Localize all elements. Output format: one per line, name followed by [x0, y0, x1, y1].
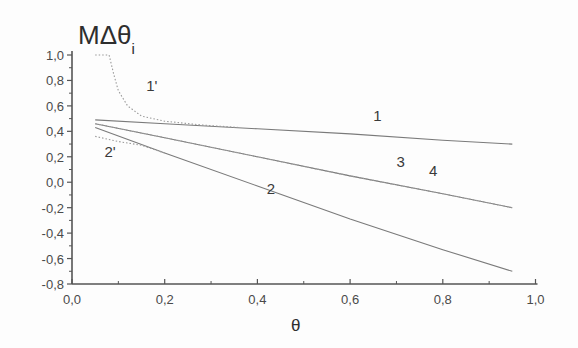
x-tick-label: 1,0: [526, 292, 544, 307]
curves: [95, 55, 512, 271]
curve-label-1: 1: [373, 107, 381, 124]
y-tick-label: 0,2: [46, 150, 64, 165]
curve-label-2-prime: 2': [104, 143, 115, 160]
y-tick-label: 0,4: [46, 124, 64, 139]
y-tick-label: -0,4: [42, 226, 64, 241]
y-tick-label: 0,8: [46, 73, 64, 88]
axes: [72, 51, 538, 284]
curve-1-prime: [95, 55, 239, 128]
curve-1: [95, 120, 512, 144]
x-tick-label: 0,4: [248, 292, 266, 307]
curve-label-1-prime: 1': [146, 77, 157, 94]
x-tick-label: 0,6: [341, 292, 359, 307]
x-tick-label: 0,0: [63, 292, 81, 307]
y-tick-label: -0,6: [42, 252, 64, 267]
y-tick-label: -0,8: [42, 277, 64, 292]
x-tick-label: 0,2: [156, 292, 174, 307]
curve-label-3: 3: [396, 153, 404, 170]
x-axis-title: θ: [291, 316, 300, 335]
curve-4: [95, 124, 512, 208]
curve-2: [95, 128, 512, 272]
y-tick-label: 0,0: [46, 175, 64, 190]
y-axis-title: MΔθi: [78, 20, 135, 57]
curve-label-4: 4: [429, 162, 437, 179]
x-tick-label: 0,8: [434, 292, 452, 307]
curve-label-2: 2: [267, 180, 275, 197]
y-tick-label: 1,0: [46, 48, 64, 63]
y-tick-label: 0,6: [46, 99, 64, 114]
y-tick-label: -0,2: [42, 201, 64, 216]
line-chart: 1,00,80,60,40,20,0-0,2-0,4-0,6-0,80,00,2…: [0, 0, 578, 348]
